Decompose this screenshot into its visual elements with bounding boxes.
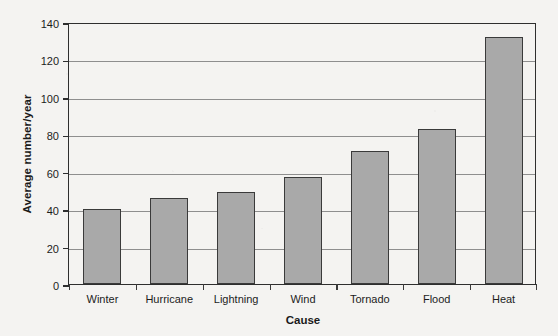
- bar[interactable]: [351, 151, 389, 284]
- y-axis-tick-label: 100: [41, 93, 59, 105]
- x-axis-tick: [470, 284, 471, 290]
- bar-slot: Tornado: [336, 24, 403, 284]
- bar[interactable]: [284, 177, 322, 284]
- bar-slot: Heat: [470, 24, 537, 284]
- y-axis-title: Average number/year: [14, 23, 40, 285]
- bar-slot: Lightning: [203, 24, 270, 284]
- x-axis-tick-label: Heat: [492, 293, 515, 305]
- x-axis-tick: [69, 284, 70, 290]
- bar-slot: Wind: [270, 24, 337, 284]
- bar[interactable]: [217, 192, 255, 284]
- x-axis-tick: [270, 284, 271, 290]
- x-axis-tick-label: Wind: [290, 293, 315, 305]
- y-axis-tick-label: 20: [47, 243, 59, 255]
- bar-slot: Flood: [403, 24, 470, 284]
- x-axis-tick: [203, 284, 204, 290]
- x-axis-tick-label: Winter: [87, 293, 119, 305]
- x-axis-tick: [403, 284, 404, 290]
- bar-slot: Hurricane: [136, 24, 203, 284]
- x-axis-tick-label: Hurricane: [145, 293, 193, 305]
- y-axis-tick-label: 120: [41, 55, 59, 67]
- bars-group: WinterHurricaneLightningWindTornadoFlood…: [69, 24, 535, 284]
- x-axis-tick-label: Lightning: [214, 293, 259, 305]
- bar-slot: Winter: [69, 24, 136, 284]
- x-axis-tick: [136, 284, 137, 290]
- x-axis-tick-label: Tornado: [350, 293, 390, 305]
- y-axis-tick-label: 140: [41, 18, 59, 30]
- x-axis-tick-label: Flood: [423, 293, 451, 305]
- bar[interactable]: [83, 209, 121, 284]
- x-axis-title: Cause: [68, 314, 538, 326]
- bar[interactable]: [485, 37, 523, 284]
- y-axis-tick-label: 80: [47, 130, 59, 142]
- y-axis-tick-label: 0: [53, 280, 59, 292]
- x-axis-tick: [336, 284, 337, 290]
- plot-area: 020406080100120140 WinterHurricaneLightn…: [68, 23, 536, 285]
- y-axis-tick-label: 40: [47, 205, 59, 217]
- bar[interactable]: [418, 129, 456, 284]
- bar-chart-figure: Average number/year 020406080100120140 W…: [0, 0, 558, 336]
- bar[interactable]: [150, 198, 188, 284]
- x-axis-tick: [536, 284, 537, 290]
- y-axis-tick-label: 60: [47, 168, 59, 180]
